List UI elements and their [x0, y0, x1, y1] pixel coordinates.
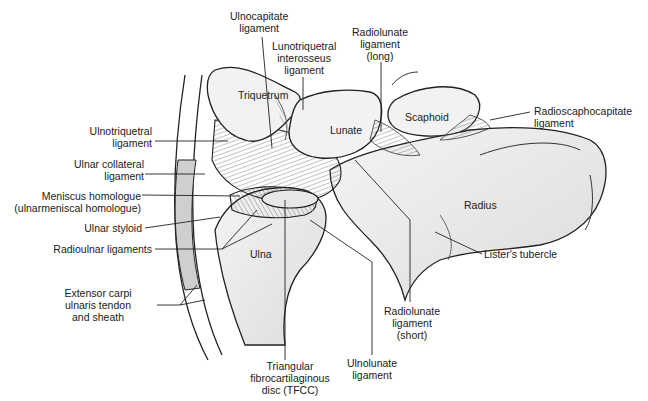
label-lunate: Lunate	[330, 124, 362, 136]
callout-radiolunate-ligament-long: Radiolunate ligament (long)	[352, 26, 408, 62]
callout-radioulnar-ligaments: Radioulnar ligaments	[40, 243, 152, 255]
label-triquetrum: Triquetrum	[238, 89, 289, 101]
label-radius: Radius	[464, 199, 497, 211]
label-scaphoid: Scaphoid	[405, 111, 449, 123]
callout-ulnar-styloid: Ulnar styloid	[60, 222, 142, 234]
callout-ulnocapitate-ligament: Ulnocapitate ligament	[230, 10, 288, 34]
radius-bone	[330, 128, 606, 300]
callout-ulnar-collateral-ligament: Ulnar collateral ligament	[60, 158, 144, 182]
tfcc-disc	[262, 190, 318, 208]
callout-ecu-tendon-sheath: Extensor carpi ulnaris tendon and sheath	[56, 287, 140, 323]
callout-lunotriquetral-interosseus-ligament: Lunotriquetral interosseus ligament	[272, 40, 336, 76]
callout-radiolunate-ligament-short: Radiolunate ligament (short)	[383, 305, 441, 341]
callout-meniscus-homologue: Meniscus homologue (ulnarmeniscal homolo…	[8, 190, 141, 214]
callout-radioscaphocapitate-ligament: Radioscaphocapitate ligament	[534, 105, 632, 129]
callout-listers-tubercle: Lister's tubercle	[484, 248, 557, 260]
callout-ulnolunate-ligament: Ulnolunate ligament	[342, 357, 402, 381]
callout-ulnotriquetral-ligament: Ulnotriquetral ligament	[88, 125, 152, 149]
label-ulna: Ulna	[250, 248, 272, 260]
callout-tfcc: Triangular fibrocartilaginous disc (TFCC…	[240, 360, 340, 396]
